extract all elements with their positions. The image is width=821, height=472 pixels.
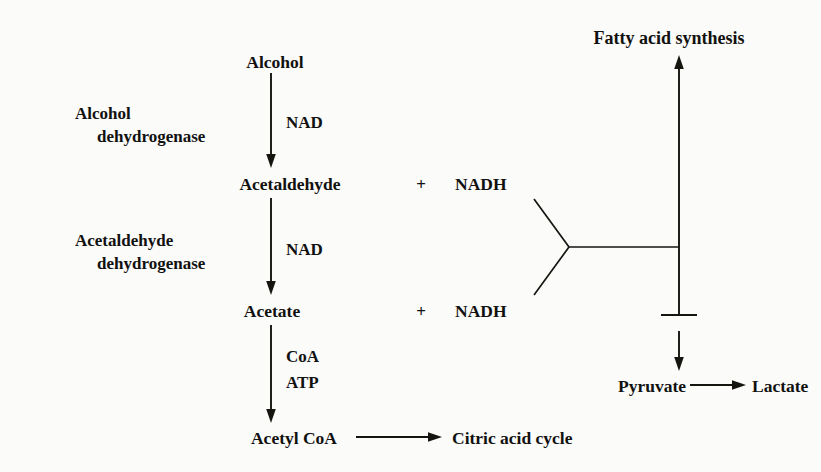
label-atp: ATP xyxy=(286,373,319,392)
label-plus-upper: + xyxy=(416,175,426,194)
label-nadh-upper: NADH xyxy=(455,174,507,194)
label-nad-step2: NAD xyxy=(286,240,323,259)
label-pyruvate: Pyruvate xyxy=(618,376,686,396)
nadh-convergence-junction xyxy=(534,199,679,295)
label-enzyme-alcohol-dehydrogenase-line1: Alcohol xyxy=(75,104,131,123)
label-acetate: Acetate xyxy=(244,301,301,321)
label-coa: CoA xyxy=(286,347,320,366)
arrow-alcohol-to-acetaldehyde xyxy=(266,73,276,168)
pathway-diagram-canvas: Alcohol Acetaldehyde Acetate Acetyl CoA … xyxy=(0,0,821,472)
arrow-acetyl-coa-to-citric-acid-cycle xyxy=(356,432,442,442)
label-fatty-acid-synthesis: Fatty acid synthesis xyxy=(593,28,744,48)
arrow-acetate-to-acetyl-coa xyxy=(266,325,276,423)
arrow-acetaldehyde-to-acetate xyxy=(266,198,276,295)
arrow-pyruvate-to-lactate xyxy=(690,380,746,390)
label-acetaldehyde: Acetaldehyde xyxy=(239,174,340,194)
arrow-to-pyruvate xyxy=(674,331,684,371)
pathway-diagram: Alcohol Acetaldehyde Acetate Acetyl CoA … xyxy=(0,0,821,472)
label-acetyl-coa: Acetyl CoA xyxy=(251,428,337,448)
label-plus-lower: + xyxy=(416,302,426,321)
label-citric-acid-cycle: Citric acid cycle xyxy=(452,428,573,448)
label-enzyme-acetaldehyde-dehydrogenase-line1: Acetaldehyde xyxy=(75,231,174,250)
label-nad-step1: NAD xyxy=(286,113,323,132)
label-enzyme-alcohol-dehydrogenase-line2: dehydrogenase xyxy=(97,127,206,146)
label-enzyme-acetaldehyde-dehydrogenase-line2: dehydrogenase xyxy=(97,254,206,273)
label-lactate: Lactate xyxy=(752,376,809,396)
arrow-to-fatty-acid-synthesis xyxy=(674,55,684,315)
label-nadh-lower: NADH xyxy=(455,301,507,321)
label-alcohol: Alcohol xyxy=(246,52,304,72)
